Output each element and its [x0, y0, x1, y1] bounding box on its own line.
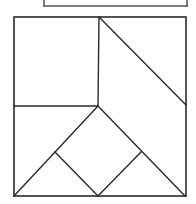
left-inner-to-bottom-mid: [55, 152, 98, 196]
upper-vertical-divider: [98, 17, 99, 106]
tangram-diagram: [0, 0, 196, 204]
upper-right-diagonal: [99, 17, 186, 105]
diagram-svg: [0, 0, 196, 204]
right-inner-to-bottom-mid: [98, 152, 141, 196]
inner-segments: [14, 17, 186, 196]
top-fragment-box: [44, 0, 187, 6]
